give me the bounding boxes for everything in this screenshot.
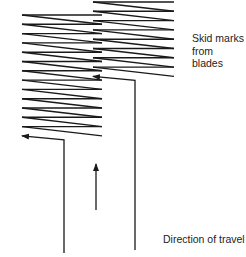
skid-marks-label: Skid marks from blades	[192, 32, 246, 70]
skid-mark-diagonal	[93, 58, 174, 67]
skid-mark-diagonal	[93, 39, 174, 48]
right-blade-track	[93, 2, 174, 250]
skid-mark-diagonal	[93, 67, 174, 76]
skid-marks-label-line2: from blades	[192, 45, 246, 70]
skid-mark-diagonal	[22, 24, 102, 33]
skid-mark-diagonal	[93, 2, 174, 11]
skid-mark-diagonal	[22, 34, 102, 43]
skid-mark-diagonal	[22, 71, 102, 80]
skid-mark-diagonal	[22, 108, 102, 117]
skid-mark-diagonal	[93, 49, 174, 58]
skid-mark-diagonal	[22, 127, 102, 136]
skid-mark-diagonal	[22, 52, 102, 61]
left-blade-track	[22, 15, 102, 253]
blade-path-arrow	[93, 76, 135, 250]
skid-mark-diagonal	[93, 11, 174, 20]
skid-mark-diagonal	[93, 21, 174, 30]
skid-mark-diagonal	[93, 30, 174, 39]
skid-mark-diagonal	[22, 80, 102, 89]
skid-mark-diagonal	[22, 15, 102, 24]
skid-marks-label-line1: Skid marks	[192, 32, 246, 45]
skid-mark-diagonal	[22, 43, 102, 52]
blade-path-arrow	[22, 136, 64, 253]
skid-mark-diagonal	[22, 89, 102, 98]
skid-mark-diagonal	[22, 99, 102, 108]
skid-mark-diagonal	[22, 117, 102, 126]
direction-of-travel-label: Direction of travel	[163, 233, 245, 246]
skid-mark-diagonal	[22, 62, 102, 71]
